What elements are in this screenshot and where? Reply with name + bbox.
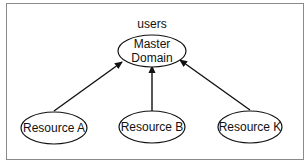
master-domain-label-line2: Domain [131, 51, 172, 65]
master-domain-label-line1: Master [134, 37, 171, 51]
users-annotation: users [137, 17, 166, 31]
resource-k-label: Resource K [219, 120, 282, 134]
resource-b-label: Resource B [121, 120, 184, 134]
resource-k-node: Resource K [218, 111, 282, 143]
resource-b-node: Resource B [119, 111, 185, 143]
diagram-canvas: users Master Domain Resource A Resource … [0, 0, 308, 163]
resource-a-label: Resource A [23, 121, 85, 135]
resource-a-node: Resource A [21, 112, 87, 144]
